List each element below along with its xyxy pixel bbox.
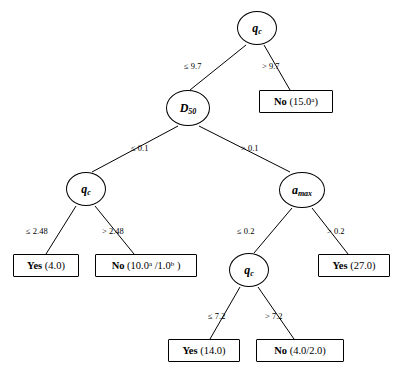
- leaf-yes-14-text: Yes (14.0): [182, 345, 225, 356]
- leaf-yes-14[interactable]: Yes (14.0): [168, 339, 240, 362]
- node-qc-right-label: qc: [244, 263, 254, 278]
- node-root-qc[interactable]: qc: [237, 11, 277, 45]
- decision-tree-diagram: qc No (15.0a) D50 qc amax Yes (4.0) No (…: [0, 0, 396, 373]
- leaf-yes-27-text: Yes (27.0): [332, 260, 375, 271]
- edge-label-qcleft-left: ≤ 2.48: [26, 226, 48, 236]
- leaf-no-10-1[interactable]: No (10.0a /1.0b ): [95, 254, 197, 277]
- edge-n3-n5: [46, 206, 76, 254]
- edge-label-d50-right: > 0.1: [241, 143, 259, 153]
- leaf-yes-27[interactable]: Yes (27.0): [318, 254, 390, 277]
- edge-n4-n7: [254, 208, 292, 253]
- leaf-no-4-2[interactable]: No (4.0/2.0): [256, 339, 344, 362]
- node-qc-left-label: qc: [81, 182, 91, 197]
- leaf-no-4-2-text: No (4.0/2.0): [274, 345, 326, 356]
- edge-label-d50-left: ≤ 0.1: [131, 143, 148, 153]
- tree-edges: [0, 0, 396, 373]
- edge-label-amax-right: > 0.2: [327, 226, 345, 236]
- leaf-no-15[interactable]: No (15.0a): [259, 90, 333, 113]
- edge-label-qcright-left: ≤ 7.2: [208, 311, 225, 321]
- node-qc-right[interactable]: qc: [229, 253, 269, 287]
- leaf-no-15-text: No (15.0a): [274, 96, 318, 107]
- edge-label-root-left: ≤ 9.7: [184, 61, 201, 71]
- node-amax[interactable]: amax: [279, 172, 325, 208]
- leaf-yes-4-text: Yes (4.0): [27, 260, 65, 271]
- node-amax-label: amax: [292, 183, 312, 198]
- edge-label-amax-left: ≤ 0.2: [237, 226, 254, 236]
- edge-label-qcleft-right: > 2.48: [102, 226, 124, 236]
- node-d50[interactable]: D50: [166, 90, 210, 126]
- leaf-yes-4[interactable]: Yes (4.0): [13, 254, 79, 277]
- node-d50-label: D50: [180, 101, 197, 116]
- node-qc-left[interactable]: qc: [66, 172, 106, 206]
- node-root-qc-label: qc: [252, 21, 262, 36]
- edge-label-root-right: > 9.7: [262, 61, 280, 71]
- leaf-no-10-1-text: No (10.0a /1.0b ): [112, 260, 181, 271]
- edge-label-qcright-right: > 7.2: [265, 311, 283, 321]
